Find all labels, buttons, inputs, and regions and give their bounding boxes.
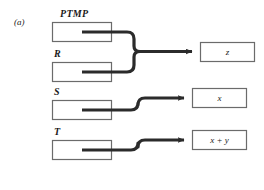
panel-label: (a) [14, 17, 25, 27]
output-label-x-plus-y: x + y [192, 135, 247, 145]
figure-panel-a: (a) PTMP R S T z x x + y [0, 0, 264, 190]
input-label-t: T [54, 126, 60, 137]
input-label-ptmp: PTMP [60, 8, 88, 19]
input-label-s: S [54, 86, 60, 97]
input-label-r: R [54, 48, 61, 59]
output-label-x: x [192, 93, 247, 103]
output-label-z: z [200, 47, 255, 57]
